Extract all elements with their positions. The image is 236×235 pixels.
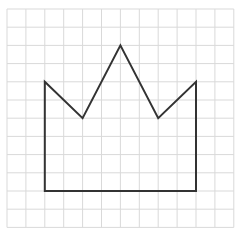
grid-lines [7,9,234,227]
grid-diagram [0,0,236,235]
